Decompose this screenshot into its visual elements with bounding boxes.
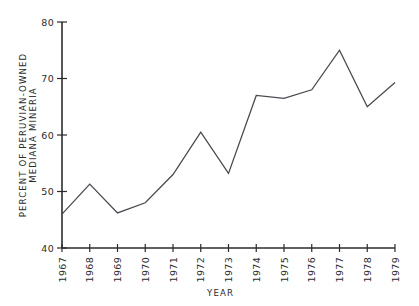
y-axis-tick-label: 80 [41, 17, 54, 28]
x-axis-tick-label: 1971 [168, 257, 179, 282]
y-axis-tick-label: 40 [41, 243, 54, 254]
y-axis-title-line2: MEDIANA MINERIA [28, 87, 38, 183]
x-axis-tick-label: 1972 [195, 257, 206, 282]
y-axis-tick-label: 60 [41, 130, 54, 141]
chart-canvas: 4050607080196719681969197019711972197319… [0, 0, 419, 306]
x-axis-tick-label: 1973 [223, 257, 234, 282]
x-axis-tick-label: 1978 [362, 257, 373, 282]
x-axis-tick-label: 1970 [140, 257, 151, 282]
x-axis-tick-label: 1974 [251, 257, 262, 282]
x-axis-tick-label: 1977 [334, 257, 345, 282]
data-series-line [62, 50, 395, 214]
y-axis-tick-label: 50 [41, 186, 54, 197]
x-axis-tick-label: 1976 [306, 257, 317, 282]
line-chart: 4050607080196719681969197019711972197319… [0, 0, 419, 306]
x-axis-tick-label: 1979 [390, 257, 401, 282]
x-axis-title: YEAR [206, 288, 234, 298]
x-axis-tick-label: 1969 [112, 257, 123, 282]
x-axis-tick-label: 1968 [84, 257, 95, 282]
x-axis-tick-label: 1975 [279, 257, 290, 282]
x-axis-tick-label: 1967 [57, 257, 68, 282]
y-axis-title-line1: PERCENT OF PERUVIAN-OWNED [18, 53, 28, 218]
y-axis-title: PERCENT OF PERUVIAN-OWNEDMEDIANA MINERIA [18, 53, 38, 218]
y-axis-tick-label: 70 [41, 73, 54, 84]
